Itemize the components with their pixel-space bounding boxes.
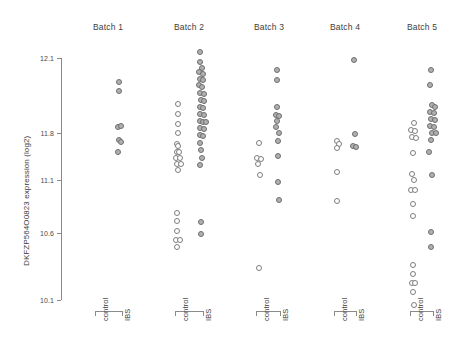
data-point (275, 153, 281, 159)
group-axis-label-control: control (340, 298, 349, 321)
y-axis-title: DKFZP564O0823 expression (log2) (22, 136, 31, 266)
data-point (201, 112, 207, 118)
panel-title-batch-4: Batch 4 (330, 22, 360, 32)
data-point (256, 265, 262, 271)
group-axis-label-control: control (416, 298, 425, 321)
data-point (198, 219, 204, 225)
data-point (198, 231, 204, 237)
data-point (411, 177, 417, 183)
data-point (174, 210, 180, 216)
y-axis-tick-label: 11.8 (40, 130, 54, 137)
data-point (274, 67, 280, 73)
data-point (433, 130, 439, 136)
data-point (410, 262, 416, 268)
data-point (175, 130, 181, 136)
group-axis-label-ibs: IBS (281, 309, 290, 321)
data-point (412, 128, 418, 134)
y-axis-tick (57, 180, 61, 181)
data-point (275, 179, 281, 185)
y-axis-line (61, 58, 62, 300)
panel-title-batch-5: Batch 5 (407, 22, 437, 32)
data-point (410, 271, 416, 277)
data-point (334, 169, 340, 175)
data-point (429, 172, 435, 178)
data-point (175, 167, 181, 173)
data-point (276, 197, 282, 203)
data-point (353, 144, 359, 150)
data-point (118, 123, 124, 129)
y-axis-tick-label: 11.1 (40, 177, 54, 184)
data-point (178, 161, 184, 167)
scatter-plot-figure: Batch 1Batch 2Batch 3Batch 4Batch 5 12.1… (0, 0, 457, 363)
y-axis-tick (57, 58, 61, 59)
data-point (197, 49, 203, 55)
data-point (175, 101, 181, 107)
y-axis-tick-label: 10.1 (40, 297, 54, 304)
data-point (413, 135, 419, 141)
data-point (412, 280, 418, 286)
data-point (200, 133, 206, 139)
data-point (116, 79, 122, 85)
data-point (255, 161, 261, 167)
data-point (352, 131, 358, 137)
data-point (274, 77, 280, 83)
data-point (428, 244, 434, 250)
y-axis-tick-label: 10.6 (40, 230, 54, 237)
data-point (201, 91, 207, 97)
group-axis-label-ibs: IBS (434, 309, 443, 321)
y-axis-tick-label: 12.1 (40, 55, 54, 62)
y-axis-tick (57, 300, 61, 301)
data-point (428, 67, 434, 73)
data-point (174, 228, 180, 234)
data-point (201, 98, 207, 104)
data-point (428, 137, 434, 143)
data-point (410, 213, 416, 219)
data-point (197, 140, 203, 146)
data-point (199, 155, 205, 161)
data-point (428, 229, 434, 235)
data-point (197, 162, 203, 168)
group-axis-label-ibs: IBS (357, 309, 366, 321)
group-axis-label-ibs: IBS (204, 309, 213, 321)
data-point (203, 119, 209, 125)
panel-title-batch-2: Batch 2 (174, 22, 204, 32)
data-point (201, 126, 207, 132)
data-point (410, 289, 416, 295)
data-point (427, 82, 433, 88)
data-point (426, 149, 432, 155)
data-point (177, 237, 183, 243)
data-point (412, 187, 418, 193)
data-point (257, 172, 263, 178)
data-point (276, 130, 282, 136)
data-point (432, 117, 438, 123)
data-point (275, 138, 281, 144)
data-point (256, 140, 262, 146)
data-point (174, 218, 180, 224)
y-axis-tick (57, 233, 61, 234)
data-point (351, 57, 357, 63)
data-point (200, 105, 206, 111)
data-point (274, 104, 280, 110)
data-point (175, 111, 181, 117)
data-point (410, 201, 416, 207)
group-axis-label-ibs: IBS (123, 309, 132, 321)
group-axis-label-control: control (181, 298, 190, 321)
data-point (175, 121, 181, 127)
y-axis-tick (57, 133, 61, 134)
data-point (115, 149, 121, 155)
data-point (411, 120, 417, 126)
data-point (334, 198, 340, 204)
data-point (410, 150, 416, 156)
data-point (118, 139, 124, 145)
group-axis-label-control: control (262, 298, 271, 321)
panel-title-batch-1: Batch 1 (93, 22, 123, 32)
group-axis-label-control: control (101, 298, 110, 321)
data-point (198, 147, 204, 153)
data-point (116, 88, 122, 94)
data-point (431, 110, 437, 116)
panel-title-batch-3: Batch 3 (254, 22, 284, 32)
data-point (174, 244, 180, 250)
data-point (334, 145, 340, 151)
